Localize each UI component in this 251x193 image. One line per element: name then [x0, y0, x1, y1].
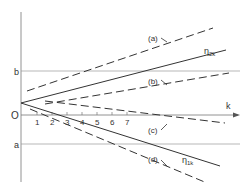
line-d	[30, 109, 207, 183]
b-label: b	[14, 67, 19, 77]
label-eta2k: η2k	[204, 46, 216, 57]
k-label: k	[226, 101, 231, 111]
line-eta1k	[21, 103, 220, 166]
label-d: (d)	[148, 155, 158, 164]
a-label: a	[14, 140, 19, 150]
line-a	[27, 28, 213, 91]
leader-c-icon	[161, 124, 167, 130]
leader-a-icon	[161, 38, 167, 42]
origin-label: O	[11, 110, 19, 121]
tick-7: 7	[125, 118, 130, 127]
line-b	[45, 73, 229, 104]
label-a: (a)	[148, 34, 158, 43]
diagram: b O a k 1 2 3 4 5 6 7 (a) η2k (b) (c) η1…	[0, 0, 251, 193]
tick-5: 5	[95, 118, 100, 127]
label-c: (c)	[148, 126, 158, 135]
label-eta1k: η1k	[182, 155, 194, 166]
line-c	[45, 101, 225, 123]
k-axis-arrow-icon	[233, 113, 240, 118]
tick-6: 6	[110, 118, 115, 127]
label-b: (b)	[148, 77, 158, 86]
tick-1: 1	[35, 118, 40, 127]
